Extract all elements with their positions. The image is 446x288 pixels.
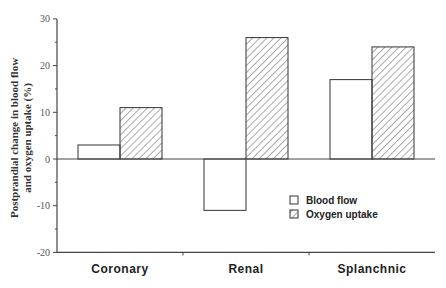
bar-blood-flow-coronary: [78, 145, 120, 159]
legend: Blood flow Oxygen uptake: [290, 195, 378, 220]
legend-swatch-oxygen-uptake: [290, 210, 298, 218]
bar-blood-flow-splanchnic: [330, 80, 372, 159]
y-tick-label: 20: [40, 60, 50, 71]
y-axis-label-line2: and oxygen uptake (%): [21, 83, 34, 193]
y-ticks: 3020100-10-20: [37, 13, 57, 258]
category-label: Splanchnic: [337, 262, 406, 276]
y-tick-label: -20: [37, 247, 50, 258]
legend-label-blood-flow: Blood flow: [306, 195, 357, 206]
category-label: Renal: [228, 262, 263, 276]
y-tick-label: 0: [45, 154, 50, 165]
legend-swatch-blood-flow: [290, 196, 298, 204]
legend-label-oxygen-uptake: Oxygen uptake: [306, 209, 378, 220]
bar-oxygen-uptake-renal: [246, 38, 288, 159]
y-tick-label: 10: [40, 107, 50, 118]
y-axis-label: Postprandial change in blood flow and ox…: [8, 58, 34, 218]
bar-chart: 3020100-10-20 CoronaryRenalSplanchnic Po…: [0, 0, 446, 288]
bar-oxygen-uptake-splanchnic: [372, 47, 414, 159]
category-labels: CoronaryRenalSplanchnic: [91, 252, 406, 276]
y-axis-label-line1: Postprandial change in blood flow: [8, 58, 20, 218]
category-label: Coronary: [91, 262, 148, 276]
bar-oxygen-uptake-coronary: [120, 108, 162, 159]
y-tick-label: -10: [37, 200, 50, 211]
bars-group: [78, 38, 414, 211]
bar-blood-flow-renal: [204, 159, 246, 210]
y-tick-label: 30: [40, 13, 50, 24]
